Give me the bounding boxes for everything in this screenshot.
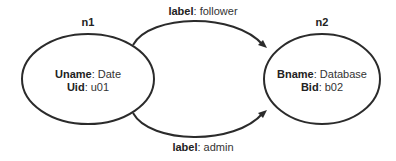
edge-label-value: admin (204, 141, 234, 153)
property-key: Bname (277, 68, 314, 80)
property-key: Bid (301, 81, 319, 93)
edge-follower-label: label: follower (168, 5, 237, 18)
node-n1-id-label: n1 (82, 16, 95, 29)
edge-label-key: label (172, 141, 197, 153)
node-n2-id-label: n2 (316, 16, 329, 29)
property-value: b02 (325, 81, 343, 93)
edge-label-value: follower (200, 5, 238, 17)
edge-admin[interactable] (133, 113, 263, 137)
property-key: Uname (55, 68, 92, 80)
node-n2-property-bname: Bname: Database (277, 68, 367, 81)
edge-label-key: label (168, 5, 193, 17)
property-value: u01 (91, 81, 109, 93)
property-value: Date (98, 68, 121, 80)
edge-admin-label: label: admin (172, 141, 233, 154)
node-n2-property-bid: Bid: b02 (301, 81, 343, 94)
property-value: Database (320, 68, 367, 80)
edge-follower[interactable] (133, 21, 263, 45)
property-key: Uid (67, 81, 85, 93)
node-n1-property-uname: Uname: Date (55, 68, 121, 81)
node-n1-property-uid: Uid: u01 (67, 81, 109, 94)
